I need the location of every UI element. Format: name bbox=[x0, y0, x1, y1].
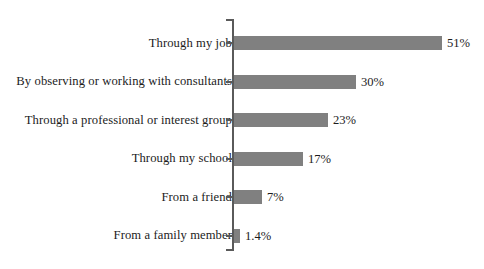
table-row: Through a professional or interest group… bbox=[0, 101, 484, 139]
bar bbox=[234, 75, 356, 89]
bar-group: 7% bbox=[234, 190, 284, 204]
bar-group: 51% bbox=[234, 36, 470, 50]
bar-value-label: 30% bbox=[361, 75, 384, 89]
bar bbox=[234, 36, 442, 50]
bar bbox=[234, 152, 303, 166]
table-row: By observing or working with consultants… bbox=[0, 63, 484, 101]
bar-value-label: 51% bbox=[447, 36, 470, 50]
bar-chart: Through my job51%By observing or working… bbox=[0, 0, 484, 269]
bar-group: 23% bbox=[234, 113, 356, 127]
axis-tick bbox=[226, 196, 233, 198]
category-label: By observing or working with consultants bbox=[0, 74, 232, 89]
axis-tick bbox=[226, 42, 233, 44]
category-label: From a family member bbox=[0, 228, 232, 243]
table-row: Through my school17% bbox=[0, 140, 484, 178]
bar-value-label: 17% bbox=[308, 152, 331, 166]
plot-area: Through my job51%By observing or working… bbox=[0, 0, 484, 269]
category-label: Through my school bbox=[0, 151, 232, 166]
bar-group: 17% bbox=[234, 152, 331, 166]
bar bbox=[234, 113, 328, 127]
axis-tick bbox=[226, 235, 233, 237]
table-row: From a friend7% bbox=[0, 178, 484, 216]
category-label: Through my job bbox=[0, 36, 232, 51]
bar-value-label: 1.4% bbox=[245, 229, 271, 243]
category-label: From a friend bbox=[0, 190, 232, 205]
bar-value-label: 7% bbox=[267, 190, 284, 204]
axis-top-cap bbox=[226, 19, 233, 21]
table-row: Through my job51% bbox=[0, 24, 484, 62]
table-row: From a family member1.4% bbox=[0, 217, 484, 255]
category-label: Through a professional or interest group bbox=[0, 113, 232, 128]
axis-tick bbox=[226, 119, 233, 121]
bar-value-label: 23% bbox=[333, 113, 356, 127]
bar bbox=[234, 229, 240, 243]
bar-group: 30% bbox=[234, 75, 384, 89]
axis-tick bbox=[226, 158, 233, 160]
bar-group: 1.4% bbox=[234, 229, 271, 243]
bar bbox=[234, 190, 262, 204]
axis-tick bbox=[226, 81, 233, 83]
